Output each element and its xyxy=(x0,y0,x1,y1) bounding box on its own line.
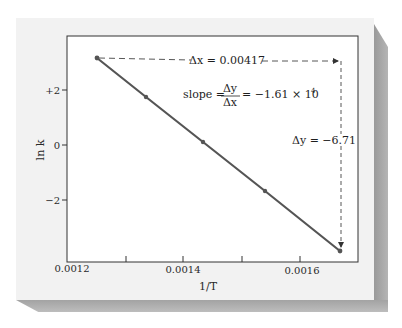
y-tick-label: −2 xyxy=(45,195,60,206)
y-axis-title: ln k xyxy=(34,139,47,160)
chart-svg: +2 0 −2 ln k 0.0012 0.0014 0.0016 1/T Δx… xyxy=(0,0,402,328)
slope-exponent: 4 xyxy=(311,87,316,95)
slope-numerator: Δy xyxy=(223,82,238,95)
slope-denominator: Δx xyxy=(223,96,238,109)
x-tick-label: 0.0016 xyxy=(285,265,320,276)
data-point xyxy=(338,249,343,254)
data-point xyxy=(201,140,205,144)
y-tick-label: 0 xyxy=(54,140,60,151)
slope-prefix: slope = xyxy=(183,88,225,101)
x-tick-label: 0.0014 xyxy=(166,264,201,275)
data-point xyxy=(95,56,100,61)
y-axis: +2 0 −2 ln k xyxy=(34,85,67,206)
slope-value: = −1.61 × 10 xyxy=(242,88,319,101)
x-tick-label: 0.0012 xyxy=(55,263,90,274)
data-point xyxy=(144,95,148,99)
data-point xyxy=(263,189,267,193)
y-tick-label: +2 xyxy=(45,85,60,96)
x-axis-title: 1/T xyxy=(199,280,218,293)
delta-x-label: Δx = 0.00417 xyxy=(189,54,265,67)
delta-y-label: Δy = −6.71 xyxy=(292,134,356,147)
